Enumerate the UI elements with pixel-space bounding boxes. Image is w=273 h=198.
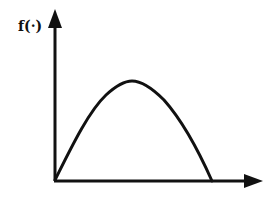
function-curve	[55, 81, 212, 181]
y-axis-arrow-icon	[48, 9, 62, 28]
x-axis-arrow-icon	[244, 174, 263, 188]
y-axis-label: f(·)	[18, 19, 42, 33]
diagram-canvas: f(·)	[0, 0, 273, 198]
